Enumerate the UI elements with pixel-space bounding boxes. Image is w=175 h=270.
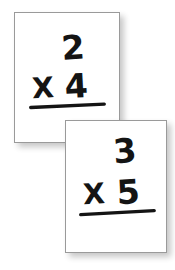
multiplication-operator: X bbox=[82, 177, 106, 211]
answer-line bbox=[31, 104, 105, 107]
multiplicand-digit: 2 bbox=[60, 27, 86, 68]
card-problem-text: 2 X 4 bbox=[15, 13, 16, 14]
multiplicand-digit: 3 bbox=[112, 130, 138, 171]
multiplier-digit: 5 bbox=[116, 172, 141, 212]
card-problem-text: 3 X 5 bbox=[66, 121, 67, 122]
answer-line bbox=[81, 211, 155, 215]
flashcards-scene: 2 X 4 2 X 4 3 X 5 3 X 5 bbox=[0, 0, 175, 270]
flashcard-multiplication-3x5[interactable]: 3 X 5 3 X 5 bbox=[65, 120, 167, 253]
handwriting-layer: 3 X 5 bbox=[66, 121, 166, 252]
multiplier-digit: 4 bbox=[64, 66, 89, 106]
multiplication-operator: X bbox=[31, 71, 55, 105]
